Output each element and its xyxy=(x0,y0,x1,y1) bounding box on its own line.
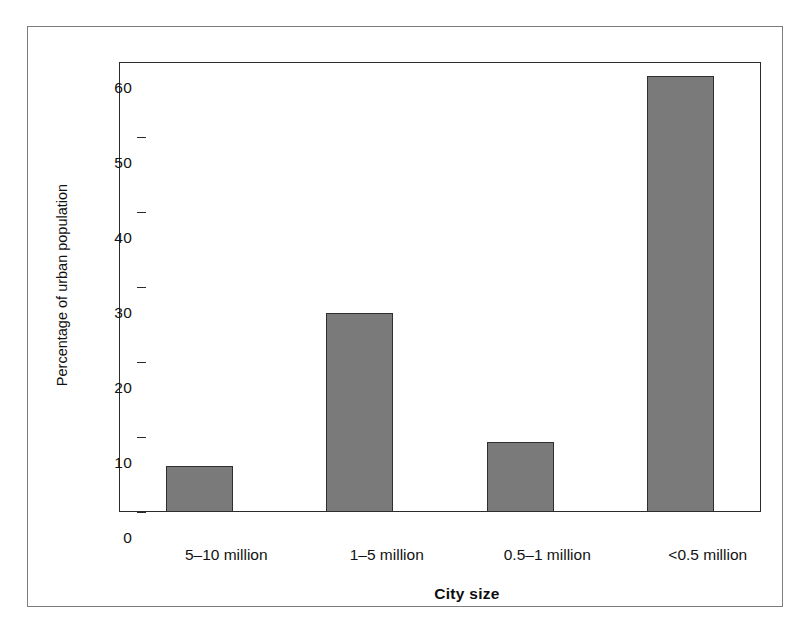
bar-2 xyxy=(487,442,554,512)
y-axis-ticks: 60 50 40 30 20 10 0 xyxy=(86,27,132,629)
y-tick-mark xyxy=(137,137,146,138)
y-tick-mark xyxy=(137,212,146,213)
y-tick-label: 40 xyxy=(92,229,132,247)
x-tick-label: 1–5 million xyxy=(307,546,468,564)
bar-3 xyxy=(647,76,714,513)
bar-1 xyxy=(326,313,393,513)
y-tick-label: 0 xyxy=(92,529,132,547)
y-tick-label: 10 xyxy=(92,454,132,472)
figure-frame: 60 50 40 30 20 10 0 Percentage of urban … xyxy=(27,26,783,607)
y-tick-mark xyxy=(137,287,146,288)
y-tick-mark xyxy=(137,362,146,363)
y-tick-label: 20 xyxy=(92,379,132,397)
bar-0 xyxy=(166,466,233,512)
x-tick-label: 5–10 million xyxy=(146,546,307,564)
y-axis-title: Percentage of urban population xyxy=(54,155,70,415)
x-axis-ticks: 5–10 million 1–5 million 0.5–1 million <… xyxy=(146,546,788,572)
y-tick-label: 30 xyxy=(92,304,132,322)
x-tick-label: 0.5–1 million xyxy=(467,546,628,564)
x-axis-title: City size xyxy=(146,585,788,603)
y-tick-label: 50 xyxy=(92,154,132,172)
x-tick-label: <0.5 million xyxy=(628,546,789,564)
y-tick-label: 60 xyxy=(92,79,132,97)
y-tick-mark xyxy=(137,437,146,438)
y-tick-mark xyxy=(137,62,146,63)
bar-series xyxy=(119,62,761,512)
y-tick-mark xyxy=(137,512,146,513)
